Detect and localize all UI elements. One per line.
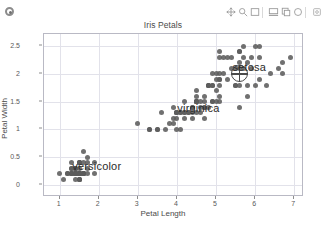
gridline-vertical [294, 34, 295, 195]
data-point[interactable] [202, 116, 207, 121]
data-point[interactable] [268, 71, 273, 76]
lasso-select-icon[interactable] [268, 6, 279, 18]
gridline-horizontal [44, 74, 302, 75]
toolbar-separator [262, 7, 266, 18]
data-point[interactable] [237, 105, 242, 110]
data-point[interactable] [155, 127, 160, 132]
cluster-label-setosa: setosa [232, 61, 266, 73]
figure: Iris Petals Petal Width Petal Length 00.… [0, 18, 326, 223]
data-point[interactable] [73, 171, 78, 176]
data-point[interactable] [174, 116, 179, 121]
gridline-horizontal [44, 129, 302, 130]
data-point[interactable] [245, 94, 250, 99]
data-point[interactable] [221, 71, 226, 76]
x-axis-tick-label: 4 [174, 200, 178, 207]
copy-icon[interactable] [280, 6, 291, 18]
pan-move-icon[interactable] [225, 6, 236, 18]
data-point[interactable] [217, 83, 222, 88]
data-point[interactable] [217, 49, 222, 54]
data-point[interactable] [163, 127, 168, 132]
x-axis-tick-label: 3 [135, 200, 139, 207]
data-point[interactable] [182, 116, 187, 121]
x-axis-tick-mark [293, 196, 294, 199]
x-axis-tick-label: 2 [96, 200, 100, 207]
y-axis-tick-label: 1.5 [0, 97, 20, 104]
gridline-horizontal [44, 185, 302, 186]
gridline-vertical [138, 34, 139, 195]
data-point[interactable] [92, 171, 97, 176]
data-point[interactable] [229, 55, 234, 60]
data-point[interactable] [249, 55, 254, 60]
data-point[interactable] [217, 94, 222, 99]
reset-view-icon[interactable] [292, 6, 303, 18]
x-axis-tick-mark [215, 196, 216, 199]
data-point[interactable] [253, 83, 258, 88]
data-point[interactable] [214, 77, 219, 82]
y-axis-tick-label: 0 [0, 181, 20, 188]
data-point[interactable] [194, 88, 199, 93]
y-axis-tick-mark [39, 100, 42, 101]
data-point[interactable] [206, 83, 211, 88]
data-point[interactable] [233, 83, 238, 88]
x-axis-tick-mark [137, 196, 138, 199]
y-axis-tick-label: 1 [0, 125, 20, 132]
data-point[interactable] [241, 44, 246, 49]
data-point[interactable] [225, 77, 230, 82]
chart-title: Iris Petals [0, 20, 326, 30]
data-point[interactable] [167, 121, 172, 126]
y-axis-tick-mark [39, 72, 42, 73]
data-point[interactable] [57, 171, 62, 176]
x-axis-tick-mark [254, 196, 255, 199]
data-point[interactable] [280, 71, 285, 76]
select-rectangle-icon[interactable] [249, 6, 260, 18]
data-point[interactable] [178, 127, 183, 132]
plot-area[interactable]: versicolorvirginicasetosa [43, 33, 303, 196]
data-point[interactable] [202, 94, 207, 99]
plot-application: Iris Petals Petal Width Petal Length 00.… [0, 0, 326, 227]
data-point[interactable] [241, 55, 246, 60]
x-axis-tick-mark [59, 196, 60, 199]
data-point[interactable] [190, 116, 195, 121]
gridline-horizontal [44, 46, 302, 47]
y-axis-tick-mark [39, 156, 42, 157]
data-point[interactable] [257, 55, 262, 60]
y-axis-tick-label: 2.5 [0, 42, 20, 49]
x-axis-title: Petal Length [0, 209, 326, 218]
cluster-label-virginica: virginica [177, 102, 219, 114]
y-axis-tick-mark [39, 45, 42, 46]
data-point[interactable] [159, 110, 164, 115]
gridline-vertical [255, 34, 256, 195]
cluster-label-versicolor: versicolor [72, 160, 121, 172]
data-point[interactable] [288, 55, 293, 60]
x-axis-tick-label: 5 [213, 200, 217, 207]
x-axis-tick-mark [98, 196, 99, 199]
y-axis-tick-mark [39, 128, 42, 129]
data-point[interactable] [276, 66, 281, 71]
y-axis-tick-label: 0.5 [0, 153, 20, 160]
data-point[interactable] [245, 83, 250, 88]
data-point[interactable] [237, 49, 242, 54]
data-point[interactable] [280, 60, 285, 65]
data-point[interactable] [264, 83, 269, 88]
data-point[interactable] [81, 149, 86, 154]
data-point[interactable] [135, 121, 140, 126]
data-point[interactable] [257, 44, 262, 49]
gridline-horizontal [44, 157, 302, 158]
data-point[interactable] [61, 177, 66, 182]
data-point[interactable] [171, 105, 176, 110]
data-point[interactable] [194, 94, 199, 99]
record-circle-icon [5, 7, 14, 16]
x-axis-tick-label: 6 [252, 200, 256, 207]
zoom-region-icon[interactable] [237, 6, 248, 18]
plot-toolbar[interactable] [225, 6, 322, 18]
gridline-horizontal [44, 102, 302, 103]
data-point[interactable] [214, 88, 219, 93]
data-point[interactable] [257, 77, 262, 82]
data-point[interactable] [210, 71, 215, 76]
y-axis-tick-label: 2 [0, 69, 20, 76]
data-point[interactable] [77, 177, 82, 182]
settings-icon[interactable] [311, 6, 322, 18]
data-point[interactable] [147, 127, 152, 132]
x-axis-tick-mark [176, 196, 177, 199]
toolbar-separator [305, 7, 309, 18]
